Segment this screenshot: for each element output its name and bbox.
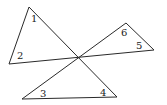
angle-label-4: 4 <box>100 87 106 98</box>
line-b-o-d <box>9 50 154 64</box>
angle-label-3: 3 <box>40 88 46 99</box>
angle-label-2: 2 <box>17 50 23 61</box>
angle-label-6: 6 <box>121 27 127 38</box>
line-a-o-f <box>29 7 117 97</box>
angle-label-1: 1 <box>31 13 37 24</box>
angle-label-5: 5 <box>136 40 142 51</box>
triangle-diagram: 1 2 3 4 5 6 <box>0 0 167 105</box>
